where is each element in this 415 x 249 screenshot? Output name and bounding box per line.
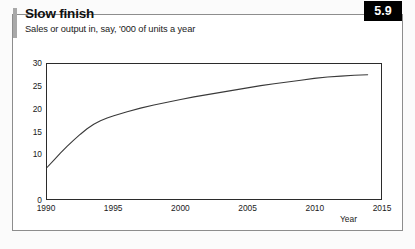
x-axis-tick-label: 2000 [160, 203, 200, 213]
x-axis-tick-label: 2005 [228, 203, 268, 213]
figure-page: Slow finish Sales or output in, say, '00… [0, 0, 415, 249]
figure-header: Slow finish Sales or output in, say, '00… [13, 6, 415, 46]
line-series-path [47, 64, 381, 199]
x-axis-tick-label: 1995 [93, 203, 133, 213]
page-title: Slow finish [25, 6, 94, 21]
figure-number-badge: 5.9 [364, 1, 402, 21]
x-axis-tick-label: 2010 [295, 203, 335, 213]
y-axis-tick-label: 15 [12, 127, 42, 137]
x-axis-tick-label: 1990 [26, 203, 66, 213]
y-axis-tick-label: 30 [12, 58, 42, 68]
y-axis-tick-label: 10 [12, 149, 42, 159]
y-axis-tick-label: 20 [12, 104, 42, 114]
chart-subtitle: Sales or output in, say, '000 of units a… [25, 24, 195, 34]
y-axis-tick-label: 25 [12, 81, 42, 91]
plot-area [46, 63, 382, 200]
x-axis-title: Year [340, 214, 357, 224]
x-axis-tick-label: 2015 [362, 203, 402, 213]
title-accent-bar [13, 8, 17, 38]
